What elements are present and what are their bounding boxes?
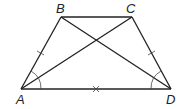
vertex-label-d: D bbox=[166, 92, 175, 107]
angle-arc-d bbox=[151, 71, 161, 89]
vertex-label-b: B bbox=[56, 1, 65, 16]
trapezoid-diagram: B C A D bbox=[0, 0, 183, 109]
vertex-label-a: A bbox=[15, 92, 25, 107]
tick-mark-cd bbox=[148, 51, 155, 55]
vertex-label-c: C bbox=[126, 1, 136, 16]
